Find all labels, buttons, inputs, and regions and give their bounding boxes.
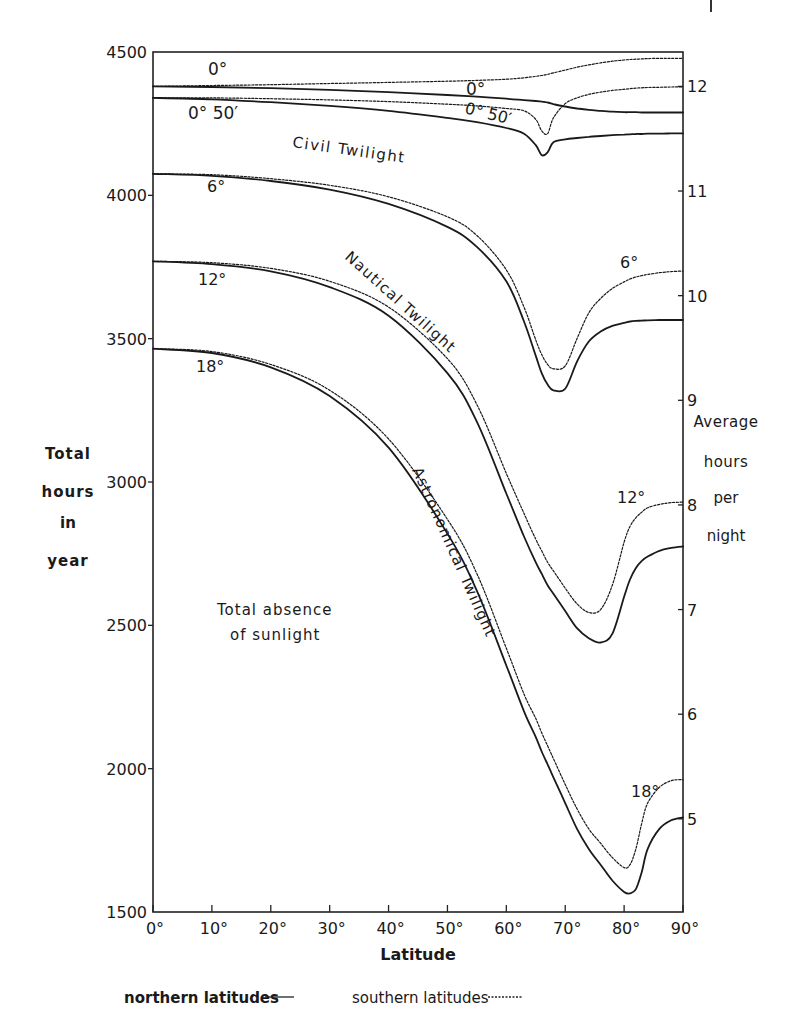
label-12deg-left: 12° bbox=[198, 270, 226, 289]
y-tick-label: 3000 bbox=[106, 473, 147, 492]
label-0deg-left: 0° bbox=[208, 59, 227, 79]
ylabel-left-line3: in bbox=[60, 514, 76, 532]
x-tick-label: 10° bbox=[200, 919, 228, 938]
y-right-tick-label: 11 bbox=[687, 182, 707, 201]
label-18deg-left: 18° bbox=[196, 357, 224, 376]
label-18deg-right: 18° bbox=[631, 782, 659, 801]
legend-north-label: northern latitudes bbox=[124, 989, 279, 1007]
x-tick-label: 40° bbox=[376, 919, 404, 938]
curve-6-southern bbox=[153, 174, 683, 370]
label-0deg-right: 0° bbox=[466, 79, 485, 99]
y-tick-label: 3500 bbox=[106, 330, 147, 349]
y-tick-label: 2500 bbox=[106, 616, 147, 635]
x-tick-label: 70° bbox=[553, 919, 581, 938]
y-tick-label: 2000 bbox=[106, 760, 147, 779]
x-tick-label: 80° bbox=[612, 919, 640, 938]
y-tick-label: 4500 bbox=[106, 43, 147, 62]
label-of-sunlight: of sunlight bbox=[230, 626, 320, 644]
y-right-tick-label: 10 bbox=[687, 287, 707, 306]
twilight-chart: 0°10°20°30°40°50°60°70°80°90°15002000250… bbox=[0, 0, 795, 1026]
label-civil-twilight: Civil Twilight bbox=[291, 133, 406, 167]
curve-0-southern bbox=[153, 58, 683, 86]
ylabel-left-line2: hours bbox=[42, 483, 95, 501]
label-total-absence: Total absence bbox=[216, 601, 333, 619]
x-tick-label: 0° bbox=[146, 919, 164, 938]
label-6deg-right: 6° bbox=[620, 253, 638, 272]
label-nautical-twilight: Nautical Twilight bbox=[341, 248, 459, 357]
label-12deg-right: 12° bbox=[617, 488, 645, 507]
y-right-tick-label: 6 bbox=[687, 705, 697, 724]
xlabel: Latitude bbox=[380, 945, 456, 964]
curve-18-northern bbox=[153, 349, 683, 894]
y-tick-label: 4000 bbox=[106, 186, 147, 205]
y-tick-label: 1500 bbox=[106, 903, 147, 922]
y-right-tick-label: 9 bbox=[687, 391, 697, 410]
y-right-tick-label: 7 bbox=[687, 601, 697, 620]
label-astronomical-twilight: Astronomical Twilight bbox=[408, 464, 499, 640]
x-tick-label: 30° bbox=[317, 919, 345, 938]
ylabel-right-line2: hours bbox=[704, 453, 749, 471]
x-tick-label: 20° bbox=[259, 919, 287, 938]
y-right-tick-label: 8 bbox=[687, 496, 697, 515]
x-tick-label: 50° bbox=[435, 919, 463, 938]
y-right-tick-label: 12 bbox=[687, 77, 707, 96]
x-tick-label: 60° bbox=[494, 919, 522, 938]
ylabel-right-line4: night bbox=[707, 527, 746, 545]
curve-6-northern bbox=[153, 174, 683, 392]
label-6deg-left: 6° bbox=[207, 177, 225, 196]
chart-labels: 0° 0° 0° 50′ 0° 50′ Civil Twilight 6° 6°… bbox=[42, 59, 759, 1007]
ylabel-left-line4: year bbox=[47, 552, 88, 570]
label-0deg50-left: 0° 50′ bbox=[188, 103, 238, 123]
ylabel-right-line3: per bbox=[714, 489, 740, 507]
x-tick-label: 90° bbox=[671, 919, 699, 938]
legend-south-label: southern latitudes bbox=[352, 989, 489, 1007]
ylabel-right-line1: Average bbox=[693, 413, 758, 431]
y-right-tick-label: 5 bbox=[687, 810, 697, 829]
ylabel-left-line1: Total bbox=[45, 445, 91, 463]
legend: northern latitudes southern latitudes bbox=[124, 989, 523, 1007]
